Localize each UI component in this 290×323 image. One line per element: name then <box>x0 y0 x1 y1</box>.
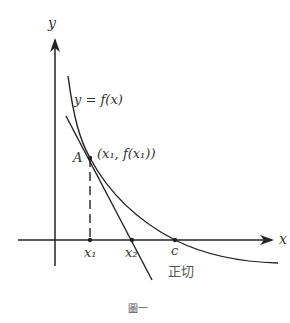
point-x1 <box>88 238 92 242</box>
function-label: y = f(x) <box>73 92 123 107</box>
point-c <box>173 238 177 242</box>
figure-caption: 圖一 <box>128 303 148 314</box>
diagram-canvas: y x y = f(x) A (x₁, f(x₁)) x₁ x₂ c 正切 圖一 <box>0 0 290 323</box>
tangent-label: 正切 <box>168 264 194 279</box>
x1-label: x₁ <box>84 245 97 260</box>
root-c-label: c <box>171 243 179 258</box>
point-a <box>88 156 92 160</box>
point-coords-label: (x₁, f(x₁)) <box>97 146 155 161</box>
x-axis-label: x <box>279 231 287 247</box>
y-axis-label: y <box>47 15 57 31</box>
x2-label: x₂ <box>125 245 138 260</box>
tangent-line <box>66 116 152 280</box>
point-a-label: A <box>72 150 82 165</box>
point-x2 <box>130 238 134 242</box>
